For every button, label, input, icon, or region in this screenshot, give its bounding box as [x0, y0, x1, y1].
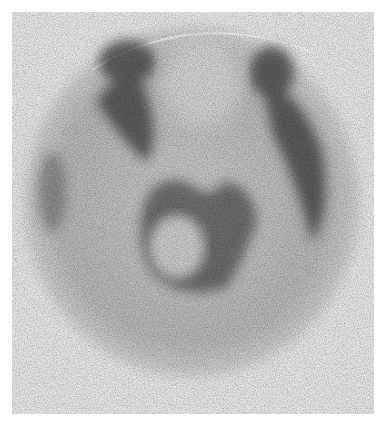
scintigram-image: [12, 12, 374, 414]
film-grain: [12, 12, 374, 414]
scintigram-plate: [12, 12, 374, 414]
